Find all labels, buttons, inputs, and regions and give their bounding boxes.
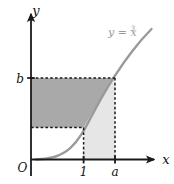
curve-equation-exponent: 3 bbox=[131, 24, 136, 33]
math-figure: y x O 1 a b y = x 3 bbox=[0, 0, 174, 184]
x-tick-label-a: a bbox=[111, 165, 118, 179]
figure-canvas: y x O 1 a b y = x 3 bbox=[0, 0, 174, 184]
curve-equation-label: y = x 3 bbox=[107, 24, 137, 39]
origin-label: O bbox=[18, 161, 28, 175]
y-tick-label-b: b bbox=[16, 72, 24, 86]
x-tick-label-one: 1 bbox=[80, 165, 88, 179]
y-axis-label: y bbox=[31, 3, 40, 18]
x-axis-label: x bbox=[162, 152, 170, 167]
